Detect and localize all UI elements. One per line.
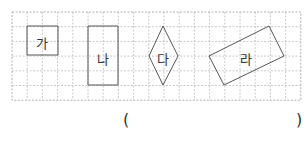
shape-label: 다	[157, 52, 169, 67]
shape-grid-figure: 가나다라	[0, 0, 306, 105]
shape-rotated-rectangle: 라	[209, 26, 284, 85]
shape-square: 가	[27, 26, 58, 55]
shape-label: 가	[36, 36, 48, 51]
shapes: 가나다라	[27, 26, 284, 85]
answer-close-paren: )	[296, 110, 302, 129]
shape-label: 나	[97, 52, 109, 67]
shape-label: 라	[240, 52, 252, 67]
answer-open-paren: (	[123, 110, 129, 129]
shape-rectangle: 나	[88, 26, 118, 85]
shape-rhombus: 다	[149, 26, 178, 85]
answer-blank[interactable]	[138, 110, 293, 130]
